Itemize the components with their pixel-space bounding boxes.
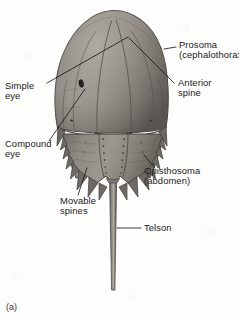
label-telson-line1: Telson (144, 223, 172, 233)
label-prosoma: Prosoma (cephalothorax) (179, 40, 239, 61)
label-simple-eye-line2: eye (5, 91, 34, 101)
label-compound-eye-line2: eye (5, 149, 52, 159)
label-opisthosoma-line2: (abdomen) (144, 176, 200, 186)
label-opisthosoma: Opisthosoma (abdomen) (144, 166, 200, 187)
label-anterior-spine-line2: spine (178, 88, 212, 98)
figure-caption: (a) (6, 302, 17, 312)
label-movable-spines-line2: spines (60, 206, 96, 216)
label-movable-spines: Movable spines (60, 196, 96, 217)
leader-line-movable-spines (78, 168, 87, 195)
label-telson: Telson (144, 223, 172, 233)
label-prosoma-line2: (cephalothorax) (179, 50, 239, 60)
leader-line-prosoma (164, 47, 176, 49)
leader-line-compound-eye (49, 89, 85, 141)
horseshoe-crab-figure: Prosoma (cephalothorax) Anterior spine S… (0, 0, 239, 314)
label-compound-eye: Compound eye (5, 139, 52, 160)
label-anterior-spine: Anterior spine (178, 78, 212, 99)
label-simple-eye: Simple eye (5, 81, 34, 102)
leader-line-anterior-spine (129, 38, 174, 83)
leader-line-simple-eye (47, 37, 128, 83)
